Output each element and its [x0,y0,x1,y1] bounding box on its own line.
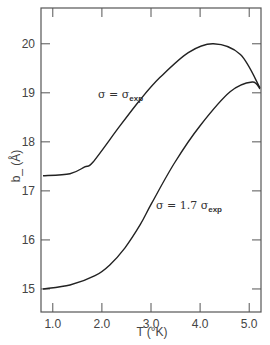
y-tick-label: 17 [22,184,36,198]
y-tick-label: 16 [22,233,36,247]
x-tick-label: 4.0 [192,317,209,331]
curves [43,44,260,289]
label-sigma-exp: σ = σexp [98,88,143,103]
y-tick-label: 19 [22,86,36,100]
curve-sigma-exp [43,44,260,176]
x-axis-label: T (°K) [136,325,167,339]
y-tick-label: 18 [22,135,36,149]
y-tick-label: 15 [22,282,36,296]
curve-sigma-1-7-exp [43,82,260,289]
x-tick-label: 2.0 [94,317,111,331]
x-tick-label: 5.0 [241,317,258,331]
label-sigma-1-7-exp: σ = 1.7 σexp [156,199,222,214]
line-chart: 1.02.03.04.05.0 151617181920 σ = σexpσ =… [0,0,270,345]
plot-frame [41,8,261,312]
y-axis-label: b_ (Å) [8,150,23,183]
curve-labels: σ = σexpσ = 1.7 σexp [98,88,222,214]
plot-border [41,8,261,312]
y-axis-ticks: 151617181920 [22,37,261,296]
x-tick-label: 1.0 [44,317,61,331]
y-tick-label: 20 [22,37,36,51]
